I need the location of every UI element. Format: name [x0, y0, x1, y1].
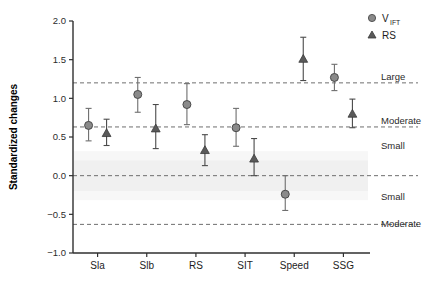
marker-triangle [348, 109, 357, 117]
marker-circle [281, 190, 289, 198]
datapoint-VIFT-RS [183, 84, 191, 125]
zone-label-4: Moderate [381, 218, 421, 229]
datapoint-VIFT-SIT [232, 108, 240, 146]
x-tick-label-ssg: SSG [333, 260, 354, 271]
x-tick-label-sla: Sla [90, 260, 105, 271]
x-tick-label-rs: RS [189, 260, 203, 271]
zone-label-0: Large [381, 71, 405, 82]
trivial-band-feather-top [73, 151, 368, 160]
y-tick-label-1: 1.5 [53, 54, 66, 65]
marker-triangle [201, 146, 210, 154]
legend-marker-triangle [368, 31, 376, 38]
marker-triangle [299, 54, 308, 62]
legend-label-vift-main: V [382, 13, 389, 24]
marker-circle [330, 73, 338, 81]
marker-circle [85, 121, 93, 129]
trivial-band-feather-bottom [73, 191, 368, 200]
standardized-changes-chart: 2.01.51.00.50.0−0.5−1.0SlaSlbRSSITSpeedS… [0, 0, 440, 295]
marker-circle [183, 101, 191, 109]
y-tick-label-5: −0.5 [47, 209, 66, 220]
datapoint-RS-SSG [348, 99, 357, 128]
chart-canvas: 2.01.51.00.50.0−0.5−1.0SlaSlbRSSITSpeedS… [0, 0, 440, 295]
y-tick-label-0: 2.0 [53, 15, 66, 26]
y-axis-title: Standardized changes [8, 83, 19, 190]
zone-label-2: Small [381, 140, 405, 151]
datapoint-VIFT-SSG [330, 64, 338, 90]
marker-circle [232, 124, 240, 132]
y-tick-label-4: 0.0 [53, 170, 66, 181]
marker-circle [134, 90, 142, 98]
x-tick-label-sit: SIT [237, 260, 253, 271]
zone-label-1: Moderate [381, 115, 421, 126]
legend-label-rs: RS [382, 30, 396, 41]
y-tick-label-6: −1.0 [47, 247, 66, 258]
zone-label-3: Small [381, 191, 405, 202]
datapoint-VIFT-Slb [134, 77, 142, 112]
y-tick-label-2: 1.0 [53, 93, 66, 104]
x-tick-label-speed: Speed [280, 260, 309, 271]
datapoint-RS-Speed [299, 37, 308, 80]
y-tick-label-3: 0.5 [53, 131, 66, 142]
x-tick-label-slb: Slb [140, 260, 155, 271]
datapoint-VIFT-Sla [85, 108, 93, 140]
datapoint-RS-Sla [102, 119, 111, 145]
marker-triangle [102, 129, 111, 137]
legend-marker-circle [368, 14, 375, 21]
legend-label-vift-sub: IFT [390, 19, 400, 26]
marker-triangle [151, 124, 160, 132]
